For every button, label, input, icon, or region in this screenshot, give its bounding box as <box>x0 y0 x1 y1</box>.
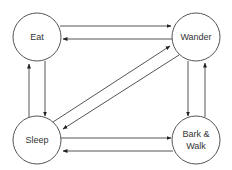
node-eat-label: Eat <box>30 32 44 42</box>
node-bark-walk: Bark & Walk <box>172 116 220 164</box>
edge-sleep-to-wander <box>53 46 170 122</box>
node-wander-label: Wander <box>180 32 211 42</box>
state-diagram: Eat Wander Sleep Bark & Walk <box>0 0 232 170</box>
node-bark-walk-circle <box>172 116 220 164</box>
node-eat: Eat <box>13 13 61 61</box>
edge-wander-to-sleep <box>63 55 179 129</box>
node-sleep: Sleep <box>13 116 61 164</box>
node-sleep-label: Sleep <box>25 135 48 145</box>
node-bark-walk-label-line2: Walk <box>186 141 206 151</box>
node-wander: Wander <box>172 13 220 61</box>
node-bark-walk-label-line1: Bark & <box>182 129 209 139</box>
